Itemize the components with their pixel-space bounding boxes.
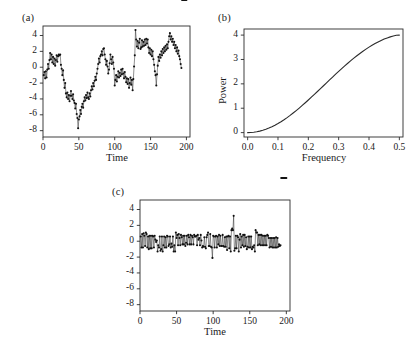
panel-a-y-tick-label: 2 xyxy=(7,45,37,55)
panel-c-y-tick-label: -6 xyxy=(104,282,134,292)
panel-b-label: (b) xyxy=(218,12,231,23)
panel-b-y-tick-label: 0 xyxy=(208,126,238,136)
panel-a-y-tick-label: 0 xyxy=(7,61,37,71)
panel-c-x-tick-label: 100 xyxy=(193,316,233,326)
figure-root: (a) Time 050100150200420-2-4-6-8 (b) Fre… xyxy=(0,0,414,356)
panel-a-x-tick-label: 150 xyxy=(131,142,171,152)
panel-a-x-tick-label: 0 xyxy=(23,142,63,152)
panel-c-x-tick-label: 150 xyxy=(230,316,270,326)
panel-c-y-tick-label: 4 xyxy=(104,203,134,213)
panel-b-x-tick-label: 0.5 xyxy=(379,142,414,152)
panel-b-y-tick-label: 4 xyxy=(208,29,238,39)
panel-b-y-tick-label: 3 xyxy=(208,53,238,63)
panel-c-y-tick-label: 2 xyxy=(104,219,134,229)
panel-a-label: (a) xyxy=(22,12,34,23)
panel-c-x-tick-label: 50 xyxy=(157,316,197,326)
panel-b-y-tick-label: 2 xyxy=(208,77,238,87)
panel-c-y-tick-label: -4 xyxy=(104,266,134,276)
panel-b-y-tick-label: 1 xyxy=(208,102,238,112)
panel-a-y-tick-label: 4 xyxy=(7,29,37,39)
panel-a-x-tick-label: 100 xyxy=(95,142,135,152)
panel-a-x-tick-label: 50 xyxy=(59,142,99,152)
panel-c-label: (c) xyxy=(112,186,124,197)
panel-b: (b) Frequency Power 0.00.10.20.30.40.501… xyxy=(200,0,414,178)
panel-a-y-tick-label: -6 xyxy=(7,108,37,118)
panel-a-x-axis-title: Time xyxy=(43,152,191,163)
panel-a-y-tick-label: -4 xyxy=(7,92,37,102)
panel-c-x-axis-title: Time xyxy=(140,326,290,337)
panel-a: (a) Time 050100150200420-2-4-6-8 xyxy=(0,0,200,178)
panel-c-x-tick-label: 200 xyxy=(266,316,306,326)
panel-c: (c) Time 050100150200420-2-4-6-8 xyxy=(100,178,310,356)
panel-c-y-tick-label: 0 xyxy=(104,235,134,245)
panel-a-y-tick-label: -8 xyxy=(7,124,37,134)
panel-c-y-tick-label: -2 xyxy=(104,251,134,261)
panel-c-x-tick-label: 0 xyxy=(120,316,160,326)
panel-c-y-tick-label: -8 xyxy=(104,298,134,308)
panel-a-y-tick-label: -2 xyxy=(7,77,37,87)
panel-b-x-axis-title: Frequency xyxy=(244,152,404,163)
